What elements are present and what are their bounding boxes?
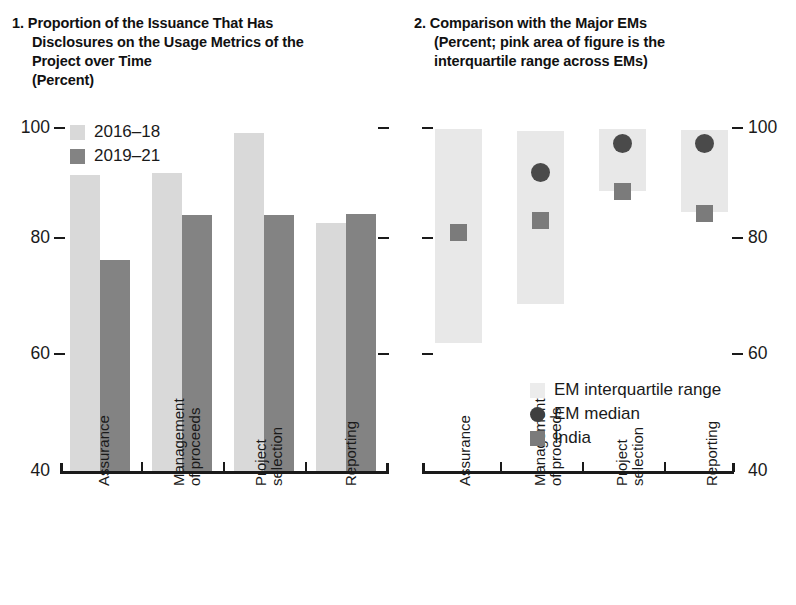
- panel-1-proportion-of-issuance: 1. Proportion of the Issuance That Has D…: [0, 0, 400, 605]
- panel-1-ytick-60: 60: [2, 345, 50, 363]
- panel-1-xtick-1: [141, 462, 143, 473]
- panel-2-legend-item-iqr: EM interquartile range: [530, 378, 721, 402]
- panel-1-xtick-2: [223, 462, 225, 473]
- panel-2-legend-item-india: India: [530, 426, 721, 450]
- panel-2-left-dash-60: [422, 353, 433, 355]
- panel-1-x-axis-cap-right: [386, 463, 389, 472]
- panel-2-ytick-60: 60: [748, 345, 794, 363]
- panel-2-legend-label-india: India: [554, 428, 591, 448]
- panel-1-ytick-dash-60: [54, 353, 65, 355]
- panel-1-right-dash-100: [378, 127, 389, 129]
- panel-2-median-reporting: [695, 134, 714, 153]
- panel-1-xlabel-project-selection: Projectselection: [253, 427, 285, 486]
- panel-1-x-axis-cap-left: [60, 463, 63, 472]
- legend-swatch-2019-21-icon: [70, 149, 85, 164]
- legend-swatch-india-icon: [530, 431, 545, 446]
- panel-2-xtick-3: [664, 462, 666, 473]
- panel-2-left-dash-80: [422, 237, 433, 239]
- panel-1-xlabel-assurance: Assurance: [96, 415, 112, 486]
- panel-2-ytick-80: 80: [748, 229, 794, 247]
- legend-swatch-2016-18-icon: [70, 125, 85, 140]
- panel-2-legend-label-median: EM median: [554, 404, 640, 424]
- panel-1-legend: 2016–18 2019–21: [70, 120, 160, 168]
- panel-1-legend-item-2016-18: 2016–18: [70, 120, 160, 144]
- panel-1-ytick-40: 40: [2, 462, 50, 480]
- panel-1-xlabel-management: Managementof proceeds: [171, 398, 203, 486]
- panel-2-india-assurance: [450, 224, 467, 241]
- panel-1-ytick-dash-100: [54, 127, 65, 129]
- panel-1-plot-area: 100 80 60 40 Assurance: [0, 0, 400, 605]
- panel-2-xlabel-assurance: Assurance: [457, 415, 473, 486]
- panel-2-ytick-dash-100: [732, 127, 743, 129]
- panel-2-legend-label-iqr: EM interquartile range: [554, 380, 721, 400]
- legend-swatch-em-interquartile-range-icon: [530, 383, 545, 398]
- panel-2-x-axis-cap-left: [422, 463, 425, 472]
- panel-2-comparison-with-major-ems: 2. Comparison with the Major EMs (Percen…: [400, 0, 796, 605]
- panel-2-plot-area: 100 80 60 40 Assurance Managementof proc…: [400, 0, 796, 605]
- panel-1-legend-item-2019-21: 2019–21: [70, 144, 160, 168]
- panel-1-ytick-80: 80: [2, 229, 50, 247]
- panel-2-x-axis-cap-right: [732, 463, 735, 472]
- panel-1-legend-label-2019-21: 2019–21: [94, 146, 160, 166]
- panel-2-xtick-2: [582, 462, 584, 473]
- panel-2-india-reporting: [696, 205, 713, 222]
- panel-1-xlabel-reporting: Reporting: [343, 421, 359, 486]
- panel-1-ytick-dash-80: [54, 237, 65, 239]
- panel-2-india-project-selection: [614, 183, 631, 200]
- panel-2-xtick-1: [500, 462, 502, 473]
- panel-1-ytick-100: 100: [2, 119, 50, 137]
- panel-2-legend-item-median: EM median: [530, 402, 721, 426]
- panel-2-ytick-100: 100: [748, 119, 794, 137]
- panel-1-xtick-3: [305, 462, 307, 473]
- panel-2-ytick-40: 40: [748, 462, 794, 480]
- panel-2-ytick-dash-80: [732, 237, 743, 239]
- panel-2-legend: EM interquartile range EM median India: [530, 378, 721, 450]
- panel-2-india-management: [532, 212, 549, 229]
- panel-1-bar-project-selection-2016-18: [234, 133, 264, 471]
- panel-2-median-management: [531, 163, 550, 182]
- panel-1-right-dash-60: [378, 353, 389, 355]
- panel-2-ytick-dash-60: [732, 353, 743, 355]
- panel-1-right-dash-80: [378, 237, 389, 239]
- legend-swatch-em-median-icon: [530, 407, 545, 422]
- panel-2-left-dash-100: [422, 127, 433, 129]
- panel-1-legend-label-2016-18: 2016–18: [94, 122, 160, 142]
- panel-2-median-project-selection: [613, 134, 632, 153]
